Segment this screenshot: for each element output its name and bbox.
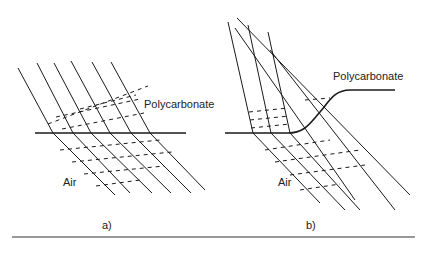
panel-b-air-label: Air <box>278 176 291 188</box>
panel-b-polycarbonate-label: Polycarbonate <box>333 70 403 82</box>
refraction-diagram <box>0 0 427 254</box>
panel-a-diagram <box>18 61 205 195</box>
panel-a-caption: a) <box>102 219 112 231</box>
panel-a-air-label: Air <box>63 176 76 188</box>
panel-b-caption: b) <box>306 219 316 231</box>
panel-b-diagram <box>225 18 410 210</box>
panel-a-polycarbonate-label: Polycarbonate <box>144 98 214 110</box>
